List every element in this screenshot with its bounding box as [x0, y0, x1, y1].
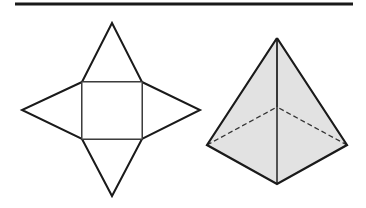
- net-triangle-top: [82, 23, 142, 82]
- pyramid-solid: [207, 38, 347, 184]
- pyramid-face-right: [277, 38, 347, 184]
- pyramid-net: [22, 23, 200, 196]
- pyramid-face-left: [207, 38, 277, 184]
- pyramid-diagram: [0, 0, 366, 208]
- net-triangle-right: [142, 82, 200, 139]
- net-triangle-bottom: [82, 139, 142, 196]
- net-triangle-left: [22, 82, 82, 139]
- net-square-base: [82, 82, 142, 139]
